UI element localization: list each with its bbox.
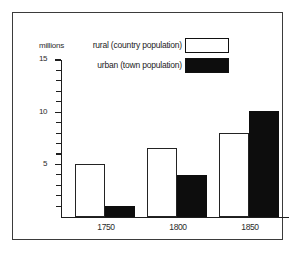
x-axis-label-1750: 1750 [75, 222, 137, 232]
bar-group-1800 [147, 60, 209, 217]
chart-border-frame: millions rural (country population) urba… [12, 12, 283, 240]
y-tick-1 [56, 206, 61, 207]
bar-1800-rural [147, 148, 177, 217]
bar-1750-rural [75, 164, 105, 216]
y-tick-8 [56, 133, 61, 134]
bar-1850-urban [249, 111, 279, 216]
y-tick-14 [56, 70, 61, 71]
y-tick-label-10: 10 [39, 107, 47, 116]
y-tick-7 [56, 143, 61, 144]
x-axis-label-1800: 1800 [147, 222, 209, 232]
y-tick-12 [56, 91, 61, 92]
legend-label-rural: rural (country population) [93, 40, 182, 50]
bar-group-1850 [219, 60, 281, 217]
bar-1800-urban [177, 175, 207, 217]
y-tick-13 [56, 80, 61, 81]
y-tick-9 [56, 122, 61, 123]
y-tick-label-15: 15 [39, 54, 47, 63]
y-tick-4 [56, 174, 61, 175]
y-tick-6 [56, 153, 61, 154]
y-tick-3 [56, 185, 61, 186]
bar-group-1750 [75, 60, 137, 217]
y-tick-2 [56, 195, 61, 196]
y-tick-label-5: 5 [43, 159, 47, 168]
y-tick-11 [56, 101, 61, 102]
y-axis-line [61, 60, 62, 218]
y-tick-10: 10 [55, 112, 61, 113]
y-axis-title: millions [39, 41, 64, 50]
bar-chart-figure: millions rural (country population) urba… [0, 0, 297, 257]
plot-area: 15105 175018001850 [61, 60, 289, 218]
legend-item-rural: rural (country population) [79, 35, 229, 55]
x-axis-line [61, 217, 289, 218]
legend-swatch-rural [185, 38, 229, 53]
bar-1750-urban [105, 206, 135, 216]
x-axis-label-1850: 1850 [219, 222, 281, 232]
y-tick-5: 5 [55, 164, 61, 165]
y-tick-15: 15 [55, 59, 61, 60]
bar-1850-rural [219, 133, 249, 217]
